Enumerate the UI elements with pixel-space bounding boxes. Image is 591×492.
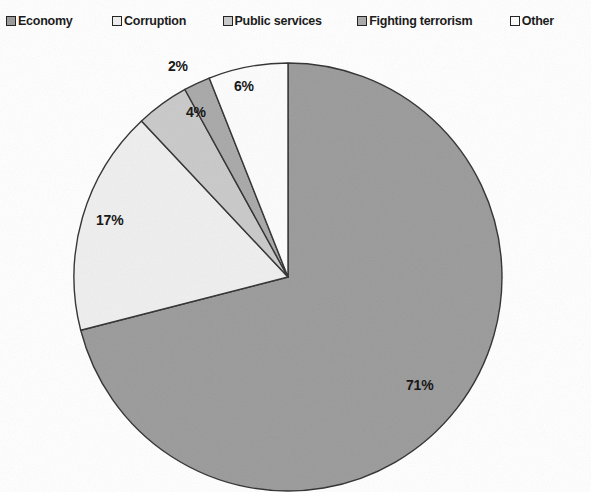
slice-data-label-public-services: 4% [186,104,206,120]
pie-svg [0,0,591,492]
slice-data-label-fighting-terrorism: 2% [168,58,188,74]
pie-plot-area [0,0,591,492]
slice-data-label-corruption: 17% [96,212,123,228]
slice-data-label-other: 6% [234,78,254,94]
pie-slice-group [74,63,502,491]
pie-chart-figure: Economy Corruption Public services Fight… [0,0,591,492]
slice-data-label-economy: 71% [406,377,433,393]
